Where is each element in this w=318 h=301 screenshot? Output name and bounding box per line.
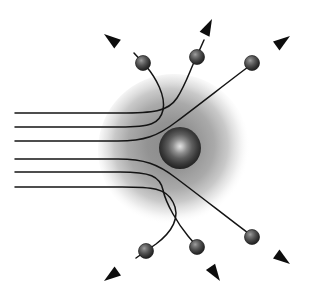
arrowhead-upper-middle bbox=[104, 34, 121, 49]
scattered-particle-upper-right bbox=[245, 56, 260, 71]
scattered-particle-upper-left bbox=[136, 56, 151, 71]
arrowhead-upper-right bbox=[273, 36, 290, 50]
scattering-diagram-canvas bbox=[0, 0, 318, 301]
arrowhead-upper-left bbox=[200, 19, 212, 37]
nucleus-group bbox=[159, 127, 201, 169]
scattered-particle-upper-middle bbox=[190, 50, 205, 65]
arrowhead-lower-right bbox=[273, 250, 290, 264]
scattered-particle-lower-right bbox=[245, 230, 260, 245]
rutherford-scattering-figure bbox=[0, 0, 318, 301]
arrowhead-lower-middle bbox=[206, 264, 220, 281]
nucleus bbox=[159, 127, 201, 169]
arrowhead-lower-left bbox=[104, 267, 121, 281]
scattered-particle-lower-middle bbox=[190, 240, 205, 255]
scattered-particle-lower-left bbox=[139, 244, 154, 259]
